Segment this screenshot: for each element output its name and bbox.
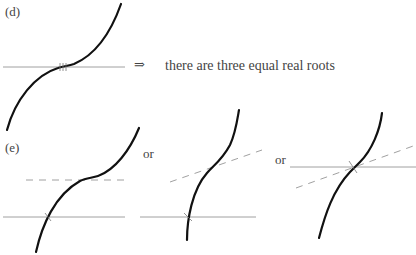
tangent-line-dashed bbox=[170, 150, 262, 182]
graph-d-triple-root bbox=[3, 4, 125, 130]
cubic-curve-e2 bbox=[187, 110, 239, 240]
cubic-curve-e1 bbox=[36, 128, 139, 252]
cubic-graphs bbox=[0, 0, 416, 255]
graph-e2 bbox=[140, 110, 262, 240]
graph-e3 bbox=[290, 113, 416, 238]
graph-e1 bbox=[3, 128, 139, 252]
cubic-curve-e3 bbox=[319, 113, 382, 238]
